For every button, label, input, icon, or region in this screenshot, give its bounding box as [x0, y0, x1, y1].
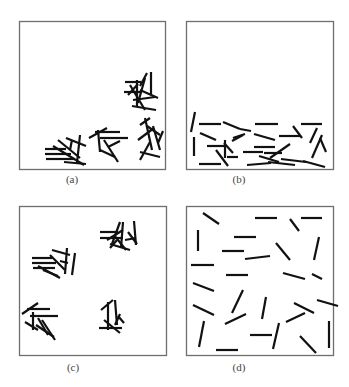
figure-canvas: [0, 0, 349, 387]
panel-label-d: (d): [219, 361, 259, 373]
panel-frame-d: [187, 207, 334, 356]
panel-a-clustered-heaps: [20, 22, 166, 170]
panel-frame-c: [20, 207, 167, 356]
panel-label-c: (c): [53, 361, 93, 373]
panel-d-dispersed: [187, 207, 339, 356]
panel-c-four-heaps: [20, 207, 167, 356]
panel-b-settled-bottom: [187, 22, 334, 170]
panel-frame-a: [20, 22, 166, 170]
panel-label-a: (a): [52, 173, 92, 185]
panel-label-b: (b): [219, 173, 259, 185]
